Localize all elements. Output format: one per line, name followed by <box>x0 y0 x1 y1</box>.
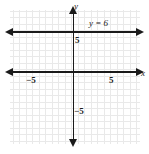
y-axis-tick-label-negative-5: −5 <box>74 107 84 116</box>
line-y6-right-arrowhead-icon <box>136 28 144 36</box>
x-axis <box>10 71 140 73</box>
y-axis <box>73 10 75 144</box>
y-axis-tick-label-5: 5 <box>75 36 80 45</box>
x-axis-left-arrowhead-icon <box>5 68 13 76</box>
coordinate-plane-graph: y x y = 6 5 −5 5 −5 <box>0 0 149 154</box>
y-axis-down-arrowhead-icon <box>69 139 77 147</box>
x-axis-label: x <box>141 69 145 78</box>
x-axis-tick-label-negative-5: −5 <box>26 76 36 85</box>
line-y-equals-6 <box>10 31 140 33</box>
x-axis-tick-label-5: 5 <box>109 76 114 85</box>
line-y6-left-arrowhead-icon <box>5 28 13 36</box>
y-axis-label: y <box>74 2 78 11</box>
line-equation-label: y = 6 <box>89 19 108 28</box>
